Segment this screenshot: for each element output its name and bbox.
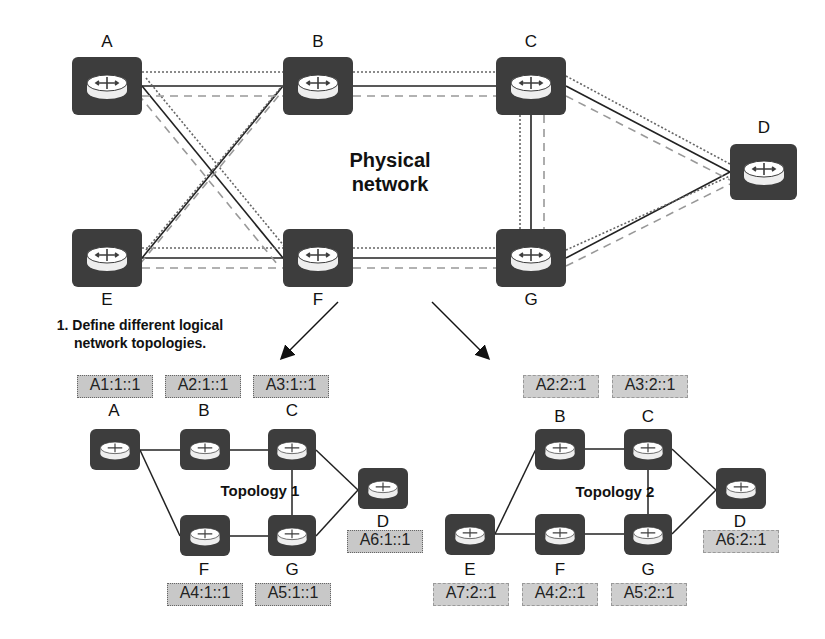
t2-label-c: C	[628, 407, 668, 427]
topology1-title: Topology 1	[200, 482, 320, 499]
router-icon	[454, 524, 486, 546]
t2-router-f[interactable]	[535, 514, 585, 555]
router-icon	[99, 439, 131, 461]
arrow-to-topology1	[282, 302, 338, 358]
router-icon	[276, 439, 308, 461]
node-label-e: E	[87, 290, 127, 310]
node-label-c: C	[511, 32, 551, 52]
router-icon	[509, 71, 553, 101]
node-label-g: G	[511, 290, 551, 310]
router-g[interactable]	[496, 229, 566, 287]
router-icon	[367, 478, 399, 500]
router-icon	[189, 439, 221, 461]
t2-router-d[interactable]	[716, 468, 766, 509]
t2-label-d: D	[720, 512, 760, 532]
router-icon	[276, 525, 308, 547]
t2-router-b[interactable]	[535, 429, 585, 470]
step-line2: network topologies.	[20, 334, 260, 352]
t1-label-d: D	[363, 512, 403, 532]
t2-router-c[interactable]	[624, 429, 672, 470]
topology2-title: Topology 2	[555, 483, 675, 500]
sid-t2-c: A3:2::1	[612, 375, 688, 398]
title-line2: network	[320, 172, 460, 196]
sid-t1-d: A6:1::1	[347, 530, 423, 553]
router-icon	[85, 71, 129, 101]
router-icon	[725, 478, 757, 500]
sid-t2-d: A6:2::1	[703, 530, 779, 553]
sid-t1-b: A2:1::1	[165, 375, 241, 398]
router-b[interactable]	[283, 57, 353, 115]
physical-network-title: Physical network	[320, 148, 460, 196]
t1-label-g: G	[272, 560, 312, 580]
router-icon	[544, 439, 576, 461]
router-icon	[296, 243, 340, 273]
router-c[interactable]	[496, 57, 566, 115]
router-icon	[632, 524, 664, 546]
t1-router-d[interactable]	[358, 468, 408, 509]
step-caption: 1. Define different logical network topo…	[20, 316, 260, 352]
node-label-b: B	[298, 32, 338, 52]
arrow-to-topology2	[432, 302, 488, 358]
t1-label-f: F	[184, 560, 224, 580]
sid-t2-e: A7:2::1	[433, 583, 509, 606]
t2-router-g[interactable]	[624, 514, 672, 555]
t1-router-a[interactable]	[90, 429, 140, 470]
node-label-a: A	[87, 32, 127, 52]
sid-t2-g: A5:2::1	[611, 583, 687, 606]
node-label-f: F	[298, 290, 338, 310]
router-a[interactable]	[72, 57, 142, 115]
router-e[interactable]	[72, 229, 142, 287]
t1-router-g[interactable]	[268, 515, 316, 556]
sid-t1-f: A4:1::1	[167, 583, 243, 606]
t1-label-b: B	[184, 401, 224, 421]
router-icon	[742, 157, 786, 187]
t1-router-f[interactable]	[180, 515, 230, 556]
sid-t2-b: A2:2::1	[523, 375, 599, 398]
diagram-canvas: A B C D E F G Physical network 1. Define…	[0, 0, 825, 639]
router-icon	[85, 243, 129, 273]
router-icon	[544, 524, 576, 546]
title-line1: Physical	[320, 148, 460, 172]
router-icon	[189, 525, 221, 547]
router-d[interactable]	[730, 144, 797, 200]
t1-label-a: A	[94, 401, 134, 421]
sid-t1-g: A5:1::1	[255, 583, 331, 606]
t2-label-e: E	[450, 560, 490, 580]
sid-t1-a: A1:1::1	[77, 375, 153, 398]
t1-label-c: C	[272, 401, 312, 421]
sid-t1-c: A3:1::1	[253, 375, 329, 398]
step-line1: 1. Define different logical	[20, 316, 260, 334]
t1-router-b[interactable]	[180, 429, 230, 470]
router-f[interactable]	[283, 229, 353, 287]
t1-router-c[interactable]	[268, 429, 316, 470]
t2-label-f: F	[540, 560, 580, 580]
t2-router-e[interactable]	[445, 514, 495, 555]
t2-label-b: B	[540, 407, 580, 427]
t2-label-g: G	[628, 560, 668, 580]
router-icon	[632, 439, 664, 461]
router-icon	[296, 71, 340, 101]
sid-t2-f: A4:2::1	[522, 583, 598, 606]
node-label-d: D	[744, 118, 784, 138]
router-icon	[509, 243, 553, 273]
